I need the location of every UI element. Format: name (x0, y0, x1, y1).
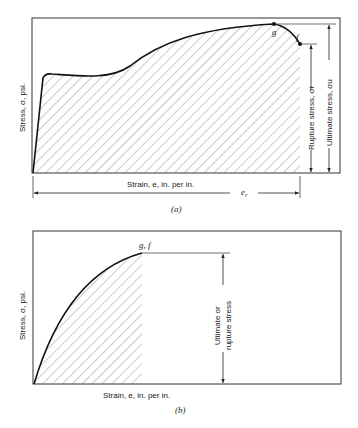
point-f-label: f (296, 32, 300, 42)
panel-a-caption: (a) (171, 204, 182, 214)
panel-b: g, f Ultimate or rupture stress Stress, … (18, 231, 341, 415)
panel-a-x-axis-label: Strain, e, in. per in. (127, 180, 194, 189)
panel-a-hatched-area (33, 24, 300, 173)
panel-a-y-axis-label: Stress, σ, psi. (18, 83, 27, 132)
panel-b-y-axis-label: Stress, σ, psi. (18, 291, 27, 340)
panel-b-caption: (b) (175, 405, 186, 415)
point-g-label: g (272, 27, 277, 37)
point-gf-label: g, f (139, 240, 152, 250)
panel-b-x-axis-label: Strain, e, in. per in. (103, 391, 170, 400)
stress-strain-diagram: g f Rupture stress, σr Ultimate stress, … (0, 0, 358, 428)
panel-b-hatched-area (34, 253, 142, 384)
panel-b-stress-label-line1: Ultimate or (213, 306, 222, 345)
ultimate-stress-label: Ultimate stress, σu (325, 79, 334, 146)
panel-b-stress-label-line2: rupture stress (224, 301, 233, 350)
rupture-stress-label: Rupture stress, σr (307, 86, 316, 150)
rupture-strain-label: er (241, 187, 248, 198)
panel-a: g f Rupture stress, σr Ultimate stress, … (18, 18, 340, 214)
